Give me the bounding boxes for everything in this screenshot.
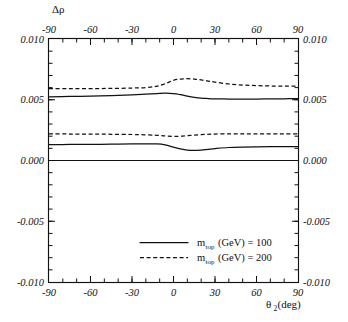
x-tick-label: 30 (209, 287, 221, 298)
x-tick-label: 90 (293, 287, 304, 298)
y-tick-label: 0.000 (303, 155, 327, 166)
y-tick-label: 0.005 (303, 94, 327, 105)
x-tick-label: 0 (171, 287, 177, 298)
chart-figure: Δρ -90-60-300306090 -90-60-300306090 -0.… (0, 0, 348, 322)
x-tick-label: 0 (171, 24, 177, 35)
x-tick-label: 30 (209, 24, 221, 35)
x-tick-label: 60 (251, 24, 262, 35)
legend-label-main-1: m (197, 252, 205, 263)
legend-label-value-1: (GeV) = 200 (218, 252, 272, 264)
y-tick-label: 0.010 (303, 34, 327, 45)
delta-rho-vs-theta2-plot: Δρ -90-60-300306090 -90-60-300306090 -0.… (0, 0, 348, 322)
y-tick-label: -0.005 (303, 216, 330, 227)
x-tick-label: -90 (42, 24, 57, 35)
x-tick-label: -90 (42, 287, 57, 298)
x-tick-label: 60 (251, 287, 262, 298)
x-tick-label: -30 (125, 287, 140, 298)
y-tick-label: 0.010 (20, 34, 44, 45)
y-tick-label: -0.005 (17, 216, 44, 227)
x-axis-title-main: θ (266, 298, 271, 310)
legend-label-subscript-1: top (206, 258, 215, 266)
y-tick-label: 0.005 (20, 94, 44, 105)
y-tick-label: -0.010 (303, 277, 331, 288)
y-tick-label: 0.000 (20, 155, 44, 166)
x-tick-label: -60 (84, 287, 99, 298)
legend-label-subscript-0: top (206, 243, 215, 251)
y-tick-label: -0.010 (17, 277, 45, 288)
y-axis-title: Δρ (52, 3, 65, 15)
x-tick-label: -60 (84, 24, 99, 35)
legend-label-main-0: m (197, 237, 205, 248)
x-axis-title-units: (deg) (278, 298, 302, 311)
x-tick-label: -30 (125, 24, 140, 35)
legend-label-value-0: (GeV) = 100 (218, 237, 272, 249)
